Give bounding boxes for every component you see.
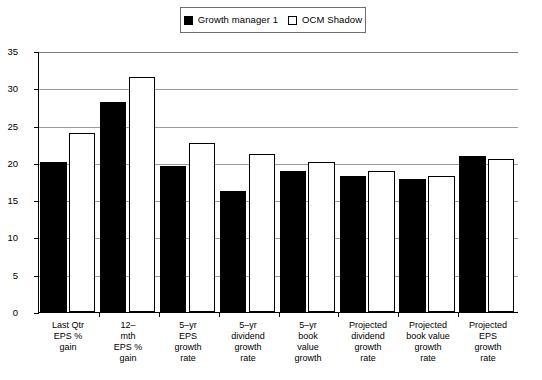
chart-legend: Growth manager 1 OCM Shadow: [180, 7, 366, 33]
bar-group: [99, 52, 159, 312]
legend-entry-ocm-shadow: OCM Shadow: [288, 15, 362, 25]
x-axis-label-line: growth: [399, 342, 457, 353]
bar-ocm-shadow[interactable]: [249, 154, 275, 312]
x-tick: [458, 312, 459, 317]
bar-ocm-shadow[interactable]: [308, 162, 334, 312]
x-axis-label-line: rate: [219, 353, 277, 364]
x-axis-label-line: Projected: [399, 320, 457, 331]
x-axis-label-line: gain: [39, 342, 97, 353]
x-axis-label-line: rate: [339, 353, 397, 364]
x-axis-label-line: dividend: [339, 331, 397, 342]
bar-growth-manager-1[interactable]: [280, 171, 306, 312]
bar-group: [338, 52, 398, 312]
x-tick: [99, 312, 100, 317]
y-tick-0: [34, 313, 39, 314]
y-axis-label-30: 30: [0, 84, 18, 94]
legend-swatch-filled-icon: [184, 16, 193, 25]
bar-ocm-shadow[interactable]: [69, 133, 95, 312]
y-axis-label-15: 15: [0, 196, 18, 206]
bar-group: [398, 52, 458, 312]
x-axis-label-line: book value: [399, 331, 457, 342]
x-axis-label: ProjectedEPSgrowthrate: [458, 320, 518, 378]
x-axis-label-line: 5–yr: [159, 320, 217, 331]
x-axis-label-line: EPS: [159, 331, 217, 342]
x-axis-label: Projecteddividendgrowthrate: [338, 320, 398, 378]
y-axis-label-5: 5: [0, 271, 18, 281]
x-tick: [279, 312, 280, 317]
x-axis-label-line: mth: [99, 331, 157, 342]
x-axis-label-line: growth: [279, 353, 337, 364]
x-axis-label-line: rate: [399, 353, 457, 364]
x-tick: [159, 312, 160, 317]
x-axis-label-line: 5–yr: [279, 320, 337, 331]
bar-ocm-shadow[interactable]: [368, 171, 394, 312]
x-axis-label-line: growth: [459, 342, 517, 353]
x-axis-label-line: value: [279, 342, 337, 353]
x-axis-label-line: Projected: [339, 320, 397, 331]
bar-growth-manager-1[interactable]: [459, 156, 485, 312]
bar-group: [39, 52, 99, 312]
x-axis-label-line: EPS: [459, 331, 517, 342]
x-axis-label: 5–yrEPSgrowthrate: [158, 320, 218, 378]
x-axis-label-line: Projected: [459, 320, 517, 331]
legend-label-growth-manager-1: Growth manager 1: [198, 15, 278, 25]
x-axis-label-line: book: [279, 331, 337, 342]
bar-group: [159, 52, 219, 312]
x-axis-label-line: growth: [219, 342, 277, 353]
y-axis-label-25: 25: [0, 122, 18, 132]
x-axis-labels: Last QtrEPS %gain12–mthEPS %gain5–yrEPSg…: [38, 320, 518, 378]
plot-area: [38, 52, 518, 313]
x-axis-label-line: growth: [159, 342, 217, 353]
x-axis-label: 12–mthEPS %gain: [98, 320, 158, 378]
legend-entry-growth-manager-1: Growth manager 1: [184, 15, 278, 25]
bar-growth-manager-1[interactable]: [160, 166, 186, 312]
x-axis-label-line: 12–: [99, 320, 157, 331]
bar-group: [458, 52, 518, 312]
x-axis-label-line: dividend: [219, 331, 277, 342]
x-axis-label: 5–yrdividendgrowthrate: [218, 320, 278, 378]
x-axis-label-line: gain: [99, 353, 157, 364]
x-axis-label-line: rate: [159, 353, 217, 364]
y-axis-label-0: 0: [0, 308, 18, 318]
y-axis-label-10: 10: [0, 233, 18, 243]
bar-growth-manager-1[interactable]: [100, 102, 126, 312]
x-axis-label-line: growth: [339, 342, 397, 353]
x-axis-label-line: EPS %: [99, 342, 157, 353]
bar-group: [279, 52, 339, 312]
bar-groups: [39, 52, 518, 312]
bar-growth-manager-1[interactable]: [340, 176, 366, 312]
x-tick: [338, 312, 339, 317]
bar-growth-manager-1[interactable]: [399, 179, 425, 312]
bar-ocm-shadow[interactable]: [428, 176, 454, 312]
x-axis-label-line: rate: [459, 353, 517, 364]
legend-label-ocm-shadow: OCM Shadow: [302, 15, 362, 25]
bar-growth-manager-1[interactable]: [220, 191, 246, 312]
chart-container: Growth manager 1 OCM Shadow 051015202530…: [0, 0, 542, 380]
y-axis-label-35: 35: [0, 47, 18, 57]
x-axis-label-line: EPS %: [39, 331, 97, 342]
x-axis-label: Last QtrEPS %gain: [38, 320, 98, 378]
x-axis-label-line: Last Qtr: [39, 320, 97, 331]
bar-growth-manager-1[interactable]: [40, 162, 66, 312]
bar-group: [219, 52, 279, 312]
x-axis-label-line: 5–yr: [219, 320, 277, 331]
x-axis-label: Projectedbook valuegrowthrate: [398, 320, 458, 378]
bar-ocm-shadow[interactable]: [488, 159, 514, 312]
bar-ocm-shadow[interactable]: [129, 77, 155, 312]
bar-ocm-shadow[interactable]: [189, 143, 215, 312]
legend-swatch-open-icon: [288, 16, 297, 25]
x-axis-label: 5–yrbookvaluegrowth: [278, 320, 338, 378]
x-tick: [398, 312, 399, 317]
y-axis-label-20: 20: [0, 159, 18, 169]
x-tick: [219, 312, 220, 317]
